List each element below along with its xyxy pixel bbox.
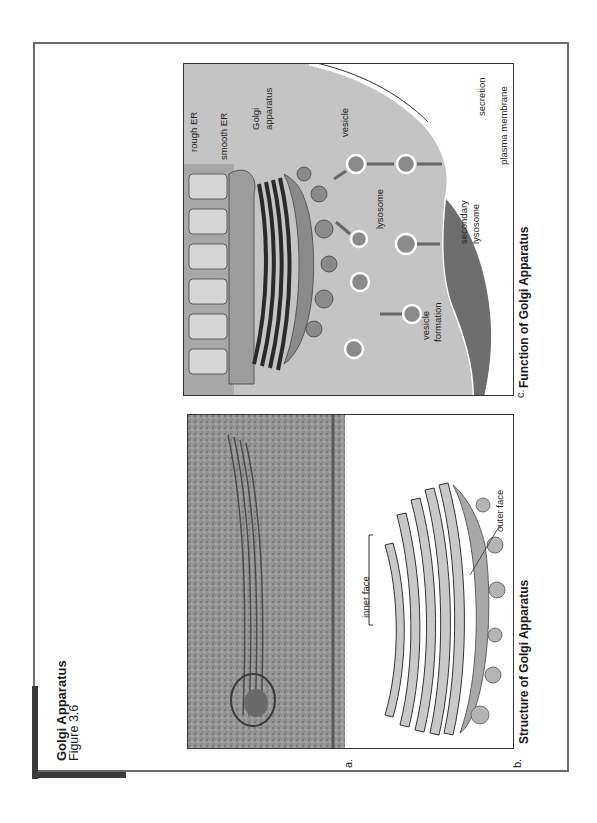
label-secondary-lysosome: lysosome	[470, 204, 481, 244]
micrograph-image	[188, 415, 347, 749]
label-inner-face: inner face	[360, 576, 371, 618]
label-golgi: Golgi	[250, 108, 261, 130]
panel-a-micrograph	[187, 414, 347, 749]
panel-c-caption: Function of Golgi Apparatus	[517, 226, 531, 388]
label-outer-face: outer face	[494, 490, 505, 532]
label-vesicle: vesicle	[339, 108, 350, 137]
label-secretion: secretion	[476, 77, 487, 116]
panel-b-caption: Structure of Golgi Apparatus	[517, 580, 531, 744]
panel-b-letter: b.	[511, 759, 523, 768]
panel-c-letter: c.	[514, 389, 526, 398]
corner-accent-bar	[32, 686, 38, 779]
label-plasma-membrane: plasma membrane	[498, 86, 509, 165]
label-lysosome: lysosome	[374, 189, 385, 229]
label-rough-er: rough ER	[188, 112, 199, 152]
label-vesicle-formation: vesicle	[420, 311, 431, 340]
panel-a-letter: a.	[342, 759, 354, 768]
figure-subtitle: Figure 3.6	[67, 705, 81, 761]
label-smooth-er: smooth ER	[218, 113, 229, 160]
label-vesicle-formation-2: formation	[432, 302, 443, 342]
corner-accent-bar	[32, 772, 126, 778]
label-secondary: secondary	[458, 200, 469, 244]
label-golgi-apparatus: apparatus	[263, 88, 274, 130]
